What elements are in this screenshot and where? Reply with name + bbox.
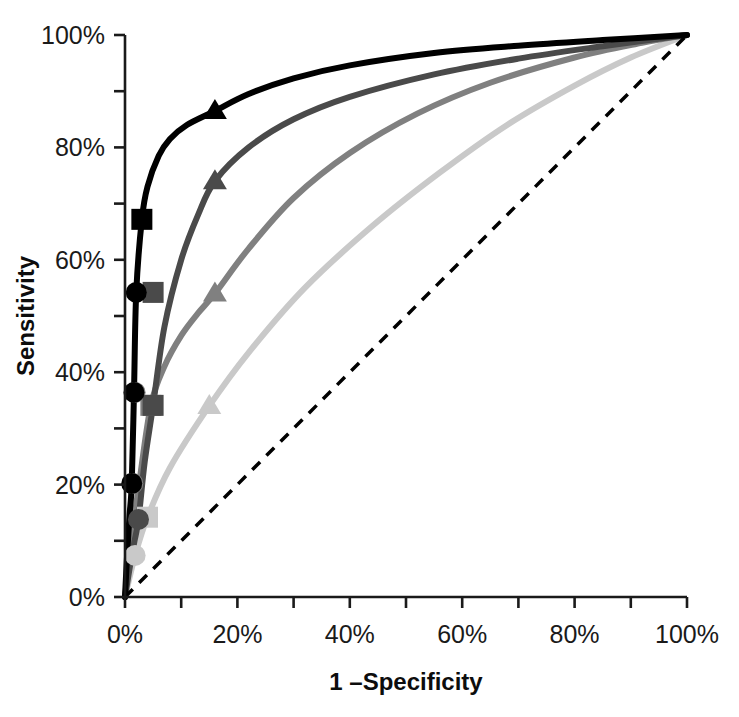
roc-plot-svg: 0%20%40%60%80%100%0%20%40%60%80%100%1 –S… bbox=[0, 0, 739, 717]
y-tick-label-100: 100% bbox=[41, 21, 105, 49]
x-axis-title: 1 –Specificity bbox=[329, 668, 483, 695]
x-tick-label-80: 80% bbox=[550, 620, 600, 648]
y-axis-title: Sensitivity bbox=[12, 255, 39, 376]
axis-label-layer: 0%20%40%60%80%100%0%20%40%60%80%100%1 –S… bbox=[12, 21, 719, 695]
marker-circle-curve-1-1 bbox=[123, 382, 144, 403]
y-tick-label-0: 0% bbox=[69, 583, 105, 611]
x-tick-label-20: 20% bbox=[212, 620, 262, 648]
x-tick-label-100: 100% bbox=[655, 620, 719, 648]
y-tick-label-80: 80% bbox=[55, 133, 105, 161]
y-tick-label-60: 60% bbox=[55, 246, 105, 274]
marker-square-curve-2-1 bbox=[143, 395, 164, 416]
marker-circle-curve-4-0 bbox=[125, 545, 146, 566]
marker-circle-curve-1-2 bbox=[126, 282, 147, 303]
x-tick-label-40: 40% bbox=[325, 620, 375, 648]
y-tick-label-40: 40% bbox=[55, 358, 105, 386]
x-tick-label-60: 60% bbox=[437, 620, 487, 648]
y-tick-label-20: 20% bbox=[55, 471, 105, 499]
marker-circle-curve-2-0 bbox=[128, 509, 149, 530]
x-tick-label-0: 0% bbox=[107, 620, 143, 648]
roc-chart: 0%20%40%60%80%100%0%20%40%60%80%100%1 –S… bbox=[0, 0, 739, 717]
marker-square-curve-1-3 bbox=[131, 209, 152, 230]
